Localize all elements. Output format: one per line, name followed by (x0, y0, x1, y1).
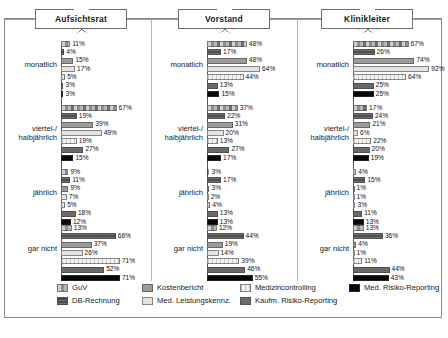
bar-0-0-2 (61, 58, 73, 64)
category-label-1: viertel-/ halbjährlich (5, 125, 57, 142)
bar-value-label: 1% (357, 250, 367, 257)
bar-1-1-5 (207, 147, 229, 153)
bar-1-0-6 (207, 91, 219, 97)
bar-1-1-6 (207, 155, 221, 161)
bar-value-label: 37% (94, 241, 107, 248)
bar-2-3-4 (353, 258, 362, 264)
bar-value-label: 48% (249, 41, 262, 48)
bar-1-0-3 (207, 66, 260, 72)
bar-0-3-3 (61, 250, 83, 256)
bar-1-0-0 (207, 41, 247, 47)
bar-value-label: 37% (240, 105, 253, 112)
bar-value-label: 13% (220, 138, 233, 145)
bar-value-label: 27% (231, 146, 244, 153)
bar-value-label: 18% (78, 210, 91, 217)
bar-1-3-5 (207, 267, 245, 273)
bar-0-2-2 (61, 186, 68, 192)
bar-value-label: 67% (411, 41, 424, 48)
category-label-2: jährlich (297, 189, 349, 198)
bar-value-label: 5% (67, 74, 77, 81)
bar-value-label: 7% (69, 194, 79, 201)
bar-value-label: 71% (122, 258, 135, 265)
bar-1-0-5 (207, 83, 218, 89)
bar-1-1-0 (207, 105, 238, 111)
bar-0-2-5 (61, 211, 76, 217)
bar-value-label: 2% (211, 194, 221, 201)
bar-value-label: 13% (220, 82, 233, 89)
bar-1-0-1 (207, 49, 221, 55)
bar-value-label: 66% (118, 233, 131, 240)
bar-0-0-5 (61, 83, 63, 89)
panel-tab-aufsichtsrat[interactable]: Aufsichtsrat (35, 9, 127, 29)
bar-value-label: 11% (364, 210, 377, 217)
bar-2-3-3 (353, 250, 355, 256)
bar-1-2-4 (207, 202, 210, 208)
bar-0-1-6 (61, 155, 73, 161)
plot-panel-vorstand: monatlich48%17%48%64%44%13%15%viertel-/ … (151, 19, 297, 281)
bar-value-label: 19% (371, 155, 384, 162)
plot-panel-aufsichtsrat: monatlich11%4%15%17%5%3%3%viertel-/ halb… (5, 19, 151, 281)
bar-value-label: 15% (75, 57, 88, 64)
bar-value-label: 4% (66, 49, 76, 56)
legend-label: GuV (72, 283, 87, 293)
bar-value-label: 44% (246, 74, 259, 81)
bar-1-2-1 (207, 177, 221, 183)
bar-1-0-2 (207, 58, 247, 64)
panel-tab-klinikleiter[interactable]: Klinikleiter (321, 9, 413, 29)
bar-value-label: 17% (223, 177, 236, 184)
bar-0-1-0 (61, 105, 117, 111)
bar-value-label: 9% (70, 169, 80, 176)
category-label-0: monatlich (5, 61, 57, 70)
bar-value-label: 39% (95, 121, 108, 128)
bar-value-label: 49% (104, 130, 117, 137)
bar-2-3-1 (353, 233, 383, 239)
bar-value-label: 1% (357, 194, 367, 201)
category-label-3: gar nicht (5, 245, 57, 254)
bar-value-label: 19% (225, 241, 238, 248)
bar-value-label: 15% (221, 91, 234, 98)
bar-2-0-0 (353, 41, 409, 47)
tab-mask (74, 9, 89, 12)
bar-1-3-6 (207, 275, 253, 281)
legend-label: Kaufm. Risiko-Reporting (255, 296, 337, 306)
bar-0-0-6 (61, 91, 63, 97)
legend-swatch-med-leistungskennz (142, 297, 153, 305)
bar-0-0-0 (61, 41, 70, 47)
bar-0-3-2 (61, 242, 92, 248)
bar-value-label: 6% (360, 130, 370, 137)
bar-0-1-2 (61, 122, 93, 128)
bar-0-3-1 (61, 233, 116, 239)
bar-2-3-6 (353, 275, 389, 281)
bar-value-label: 44% (392, 266, 405, 273)
bar-2-2-1 (353, 177, 365, 183)
bar-value-label: 22% (373, 138, 386, 145)
legend-label: Med. Risiko-Reporting (364, 283, 439, 293)
bar-0-1-5 (61, 147, 83, 153)
bar-1-3-4 (207, 258, 239, 264)
legend-swatch-medizincontrolling (240, 284, 251, 292)
bar-0-2-1 (61, 177, 70, 183)
bar-0-1-3 (61, 130, 102, 136)
bar-2-3-5 (353, 267, 390, 273)
bar-2-0-1 (353, 49, 375, 55)
bar-1-3-3 (207, 250, 219, 256)
bar-0-2-6 (61, 219, 71, 225)
bar-1-2-5 (207, 211, 218, 217)
panel-tab-label: Vorstand (205, 14, 243, 24)
bar-value-label: 17% (223, 49, 236, 56)
bar-0-3-6 (61, 275, 120, 281)
bar-value-label: 25% (376, 91, 389, 98)
bar-0-3-4 (61, 258, 120, 264)
bar-1-2-3 (207, 194, 209, 200)
bar-value-label: 11% (72, 41, 85, 48)
legend-label: DB-Rechnung (72, 296, 120, 306)
tab-mask (217, 9, 232, 12)
panel-tab-label: Aufsichtsrat (55, 14, 107, 24)
bar-2-2-6 (353, 219, 364, 225)
bar-value-label: 20% (226, 130, 239, 137)
bar-0-0-3 (61, 66, 75, 72)
bar-2-0-6 (353, 91, 374, 97)
bar-2-3-0 (353, 225, 364, 231)
panel-tab-vorstand[interactable]: Vorstand (178, 9, 270, 29)
legend-swatch-guv (57, 284, 68, 292)
